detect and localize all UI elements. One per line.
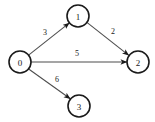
- edge-1-2-weight-label: 2: [111, 27, 115, 36]
- node-1[interactable]: 1: [67, 5, 89, 27]
- node-3[interactable]: 3: [68, 95, 90, 117]
- edge-0-2[interactable]: 5: [31, 49, 127, 63]
- edge-0-1-weight-label: 3: [43, 28, 47, 37]
- edge-0-1-line: [29, 23, 70, 55]
- graph-figure: 3 2 5 6 0 1 2 3: [0, 0, 155, 122]
- node-2[interactable]: 2: [127, 51, 149, 73]
- node-2-label: 2: [136, 58, 141, 68]
- edge-group: 3 2 5 6: [28, 23, 129, 99]
- node-3-label: 3: [77, 102, 82, 112]
- node-0-label: 0: [18, 58, 23, 68]
- edge-0-1[interactable]: 3: [29, 23, 70, 55]
- edge-0-2-weight-label: 5: [75, 49, 79, 58]
- node-0[interactable]: 0: [9, 51, 31, 73]
- edge-0-3[interactable]: 6: [28, 69, 70, 99]
- node-group: 0 1 2 3: [9, 5, 149, 117]
- node-1-label: 1: [76, 12, 81, 22]
- edge-0-3-line: [28, 69, 70, 99]
- edge-0-3-weight-label: 6: [55, 75, 59, 84]
- edge-1-2[interactable]: 2: [87, 23, 129, 56]
- edge-1-2-line: [87, 23, 129, 56]
